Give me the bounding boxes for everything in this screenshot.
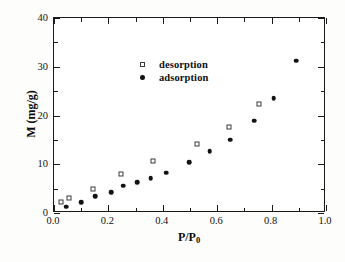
data-point-adsorption: [208, 149, 213, 154]
y-tick-label: 30: [38, 60, 49, 71]
data-point-adsorption: [148, 176, 153, 181]
x-minor-tick: [81, 208, 82, 212]
chart-figure: M (mg/g) P/P0 0.00.20.40.60.81.0 0102030…: [0, 0, 345, 262]
x-major-tick: [54, 205, 55, 211]
x-major-tick: [326, 205, 327, 211]
data-point-adsorption: [135, 180, 140, 185]
x-major-tick: [217, 205, 218, 211]
x-major-tick: [272, 205, 273, 211]
y-minor-tick-right: [321, 91, 325, 92]
x-major-tick-top: [272, 18, 273, 24]
legend-item-adsorption: adsorption: [138, 71, 248, 84]
y-major-tick: [54, 164, 60, 165]
data-point-adsorption: [228, 138, 233, 143]
open-square-icon: [138, 58, 152, 71]
x-major-tick: [163, 205, 164, 211]
data-point-adsorption: [64, 204, 69, 209]
data-point-adsorption: [79, 200, 84, 205]
x-tick-label: 0.8: [264, 215, 277, 226]
data-point-adsorption: [252, 119, 257, 124]
y-major-tick: [54, 213, 60, 214]
data-point-adsorption: [109, 190, 114, 195]
data-point-adsorption: [294, 59, 299, 64]
plot-area: desorption adsorption: [53, 17, 325, 212]
y-tick-label: 20: [38, 109, 49, 120]
data-point-desorption: [194, 141, 199, 146]
data-point-desorption: [151, 159, 156, 164]
data-point-adsorption: [121, 183, 126, 188]
y-tick-label: 10: [38, 158, 49, 169]
y-tick-label: 40: [38, 12, 49, 23]
y-minor-tick: [54, 42, 58, 43]
data-point-adsorption: [187, 160, 192, 165]
x-minor-tick: [244, 208, 245, 212]
legend-label-desorption: desorption: [159, 59, 208, 70]
x-minor-tick-top: [136, 18, 137, 22]
y-major-tick-right: [318, 67, 324, 68]
data-point-desorption: [118, 172, 123, 177]
x-minor-tick: [299, 208, 300, 212]
legend-label-adsorption: adsorption: [159, 72, 208, 83]
y-major-tick-right: [318, 18, 324, 19]
data-point-desorption: [227, 124, 232, 129]
x-tick-label: 0.4: [155, 215, 168, 226]
data-point-adsorption: [164, 170, 169, 175]
y-minor-tick-right: [321, 140, 325, 141]
y-major-tick: [54, 116, 60, 117]
y-major-tick-right: [318, 116, 324, 117]
x-major-tick-top: [326, 18, 327, 24]
data-point-desorption: [91, 187, 96, 192]
x-major-tick-top: [163, 18, 164, 24]
data-point-desorption: [257, 101, 262, 106]
data-point-adsorption: [93, 194, 98, 199]
x-tick-label: 0.2: [101, 215, 114, 226]
x-minor-tick-top: [190, 18, 191, 22]
x-axis-label: P/P0: [178, 230, 200, 245]
x-minor-tick-top: [299, 18, 300, 22]
legend-item-desorption: desorption: [138, 58, 248, 71]
chart-legend: desorption adsorption: [138, 58, 248, 84]
y-major-tick: [54, 67, 60, 68]
x-axis-label-subscript: 0: [196, 235, 200, 245]
filled-circle-icon: [138, 71, 152, 84]
x-tick-label: 1.0: [318, 215, 331, 226]
x-tick-label: 0.6: [210, 215, 223, 226]
y-minor-tick: [54, 189, 58, 190]
x-axis-label-main: P/P: [178, 230, 196, 244]
x-minor-tick-top: [81, 18, 82, 22]
y-major-tick-right: [318, 164, 324, 165]
y-major-tick: [54, 18, 60, 19]
x-minor-tick: [136, 208, 137, 212]
data-point-adsorption: [271, 96, 276, 101]
y-minor-tick-right: [321, 189, 325, 190]
data-point-desorption: [66, 195, 71, 200]
x-minor-tick: [190, 208, 191, 212]
data-point-desorption: [58, 199, 63, 204]
x-tick-label: 0.0: [46, 215, 59, 226]
y-minor-tick: [54, 140, 58, 141]
x-major-tick-top: [108, 18, 109, 24]
y-minor-tick-right: [321, 42, 325, 43]
y-minor-tick: [54, 91, 58, 92]
x-major-tick: [108, 205, 109, 211]
x-major-tick-top: [217, 18, 218, 24]
y-major-tick-right: [318, 213, 324, 214]
x-minor-tick-top: [244, 18, 245, 22]
y-tick-label: 0: [43, 207, 48, 218]
